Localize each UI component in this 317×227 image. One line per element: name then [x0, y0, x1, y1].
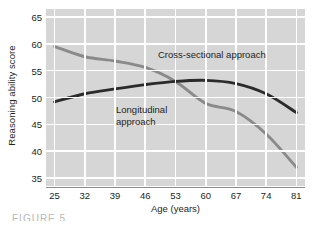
y-axis-tick-labels: 65605550454035 — [18, 0, 42, 190]
figure-caption: FIGURE 5 — [12, 213, 66, 221]
gridline-horizontal — [46, 70, 305, 72]
x-tick-label: 32 — [80, 190, 91, 201]
y-tick-label: 45 — [22, 119, 42, 130]
y-tick-label: 60 — [22, 38, 42, 49]
x-axis-line — [46, 187, 305, 188]
gridline-horizontal — [46, 43, 305, 45]
x-tick-label: 67 — [231, 190, 242, 201]
gridline-horizontal — [46, 150, 305, 152]
x-tick-label: 81 — [291, 190, 302, 201]
gridline-horizontal — [46, 124, 305, 126]
y-axis-title-text: Reasoning ability score — [6, 45, 17, 146]
x-tick-label: 25 — [49, 190, 60, 201]
x-tick-label: 60 — [200, 190, 211, 201]
y-tick-label: 65 — [22, 12, 42, 23]
plot-area: Cross-sectional approach Longitudinal ap… — [46, 9, 305, 186]
y-tick-label: 50 — [22, 92, 42, 103]
figure-container: Reasoning ability score 65605550454035 C… — [0, 0, 317, 227]
y-tick-label: 55 — [22, 65, 42, 76]
y-tick-label: 35 — [22, 172, 42, 183]
x-axis-title: Age (years) — [46, 203, 305, 214]
x-tick-label: 39 — [110, 190, 121, 201]
series-label-cross-sectional: Cross-sectional approach — [158, 49, 266, 61]
gridline-horizontal — [46, 16, 305, 18]
x-axis-tick-labels: 253239465360677481 — [46, 190, 305, 204]
x-tick-label: 46 — [140, 190, 151, 201]
gridline-horizontal — [46, 97, 305, 99]
x-tick-label: 53 — [170, 190, 181, 201]
y-tick-label: 40 — [22, 146, 42, 157]
series-label-longitudinal: Longitudinal approach — [116, 104, 167, 127]
x-tick-label: 74 — [261, 190, 272, 201]
gridline-horizontal — [46, 177, 305, 179]
